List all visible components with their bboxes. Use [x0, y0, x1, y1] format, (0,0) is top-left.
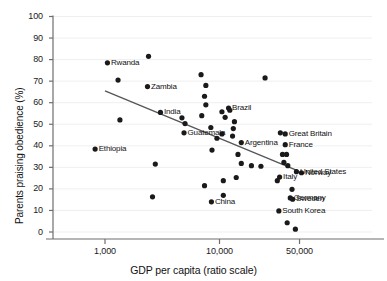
- y-tick-label: 90: [17, 34, 43, 43]
- data-point-label: Rwanda: [111, 59, 139, 67]
- data-point: [219, 109, 224, 114]
- data-point-label: Guatemala: [188, 129, 226, 137]
- data-point-label: Brazil: [232, 104, 251, 112]
- data-point: [221, 178, 226, 183]
- data-point: [158, 110, 163, 115]
- data-point: [146, 54, 151, 59]
- data-point: [231, 126, 236, 131]
- data-point: [276, 208, 281, 213]
- data-point: [283, 131, 288, 136]
- data-point: [181, 130, 186, 135]
- y-tick-label: 70: [17, 77, 43, 86]
- y-tick-label: 80: [17, 55, 43, 64]
- data-point-label: Zambia: [151, 83, 177, 91]
- data-point: [275, 178, 280, 183]
- data-point: [262, 75, 267, 80]
- y-tick-label: 40: [17, 141, 43, 150]
- data-point: [239, 161, 244, 166]
- data-point: [203, 83, 208, 88]
- data-point: [234, 175, 239, 180]
- data-point: [153, 162, 158, 167]
- data-point: [293, 227, 298, 232]
- y-axis-title: Parents praising obedience (%): [14, 87, 25, 224]
- data-point: [239, 140, 244, 145]
- data-point: [202, 94, 207, 99]
- data-point: [199, 113, 204, 118]
- y-tick-label: 60: [17, 98, 43, 107]
- data-point: [232, 119, 237, 124]
- data-point: [209, 148, 214, 153]
- data-point-label: South Korea: [282, 207, 325, 215]
- plot-area: [0, 0, 387, 281]
- data-point-label: Great Britain: [289, 130, 332, 138]
- data-point: [202, 183, 207, 188]
- data-point-label: Sweden: [296, 195, 324, 203]
- data-point-label: India: [164, 108, 181, 116]
- data-point: [182, 121, 187, 126]
- data-point: [278, 130, 283, 135]
- data-point: [209, 199, 214, 204]
- x-tick-label: 1,000: [75, 247, 135, 256]
- y-tick-label: 30: [17, 163, 43, 172]
- data-point: [223, 115, 228, 120]
- data-point: [115, 77, 120, 82]
- data-point: [285, 220, 290, 225]
- data-point-label: Ethiopia: [99, 145, 127, 153]
- x-axis-title: GDP per capita (ratio scale): [0, 264, 387, 276]
- x-tick-label: 10,000: [190, 247, 250, 256]
- data-point-label: Italy: [283, 173, 297, 181]
- data-point: [284, 152, 289, 157]
- x-tick-label: 50,000: [270, 247, 330, 256]
- y-tick-label: 100: [17, 12, 43, 21]
- y-tick-label: 0: [17, 228, 43, 237]
- data-point: [258, 164, 263, 169]
- y-tick-label: 20: [17, 184, 43, 193]
- data-point: [93, 146, 98, 151]
- data-point: [249, 163, 254, 168]
- data-point: [289, 187, 294, 192]
- data-point-label: China: [215, 198, 235, 206]
- data-point-label: France: [289, 141, 313, 149]
- data-point: [117, 117, 122, 122]
- data-point: [230, 134, 235, 139]
- data-point: [198, 72, 203, 77]
- data-point: [283, 142, 288, 147]
- data-point: [150, 194, 155, 199]
- data-point: [235, 152, 240, 157]
- data-point: [105, 60, 110, 65]
- data-point: [203, 102, 208, 107]
- data-point-label: Norway: [305, 169, 331, 177]
- data-point: [145, 84, 150, 89]
- data-point: [285, 163, 290, 168]
- y-tick-label: 50: [17, 120, 43, 129]
- tick-marks: [49, 17, 300, 245]
- y-tick-label: 10: [17, 206, 43, 215]
- scatter-chart: Parents praising obedience (%) GDP per c…: [0, 0, 387, 281]
- data-point-label: Argentina: [245, 139, 278, 147]
